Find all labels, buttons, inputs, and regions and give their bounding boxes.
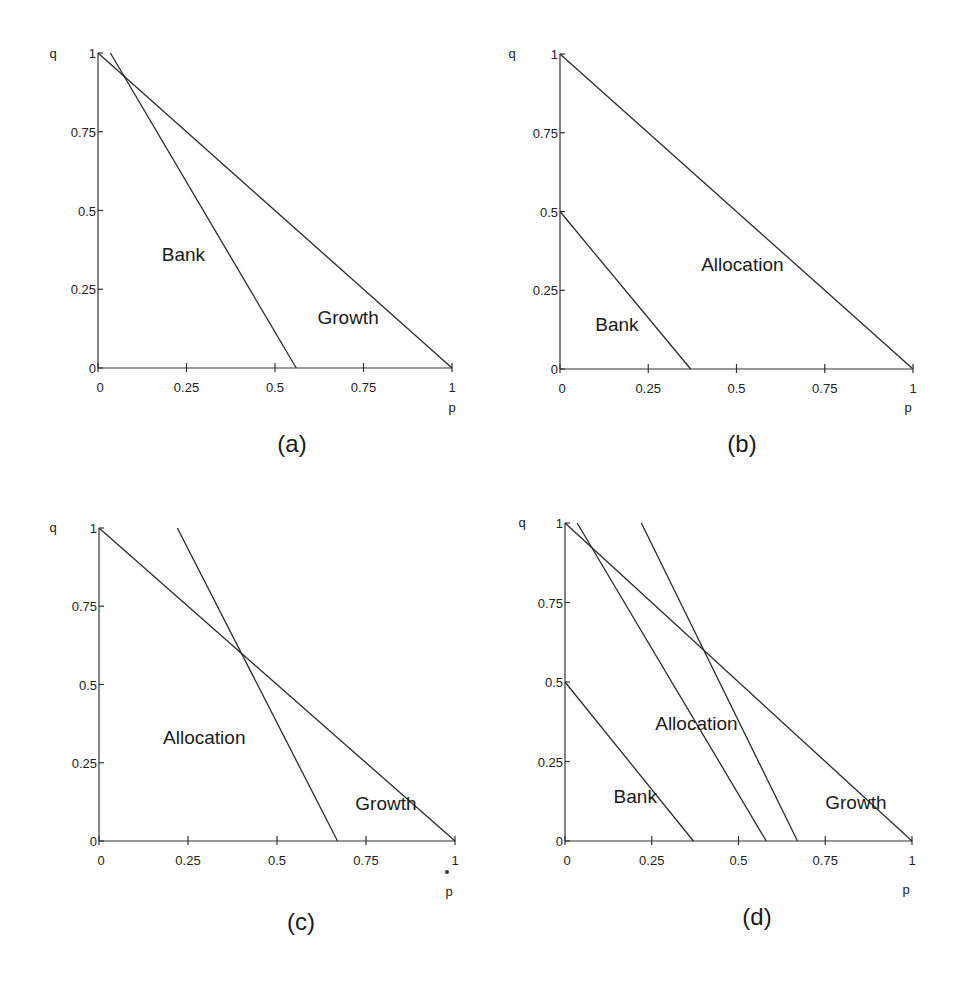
region-label-bank: Bank (595, 314, 639, 335)
boundary-line (565, 682, 693, 841)
y-tick-label: 1 (556, 516, 563, 531)
region-label-growth: Growth (355, 793, 416, 814)
panel-caption: (c) (287, 908, 315, 935)
y-tick-label: 0.5 (540, 205, 558, 220)
y-axis-title: q (518, 515, 525, 530)
boundary-line (177, 528, 337, 841)
x-tick-label: 0.25 (174, 380, 199, 395)
x-tick-label: 0.25 (636, 381, 661, 396)
x-tick-label: 0 (558, 381, 565, 396)
x-tick-label: 0.75 (812, 381, 837, 396)
y-tick-label: 1 (89, 46, 96, 61)
panel-caption: (a) (277, 430, 306, 457)
region-label-allocation: Allocation (701, 254, 783, 275)
boundary-line (560, 212, 691, 370)
y-tick-label: 0.75 (538, 596, 563, 611)
y-tick-label: 0 (551, 362, 558, 377)
x-tick-label: 0 (563, 853, 570, 868)
y-axis-title: q (508, 46, 515, 61)
region-label-allocation: Allocation (655, 713, 737, 734)
y-tick-label: 0.25 (71, 282, 96, 297)
y-tick-label: 0 (89, 361, 96, 376)
panel-caption: (b) (727, 430, 756, 457)
x-tick-label: 0.5 (727, 381, 745, 396)
x-axis-title: p (902, 882, 909, 897)
region-label-allocation: Allocation (163, 727, 245, 748)
x-tick-label: 1 (908, 853, 915, 868)
boundary-line (641, 523, 797, 841)
x-tick-label: 1 (448, 380, 455, 395)
y-tick-label: 0.75 (72, 599, 97, 614)
x-tick-label: 0.5 (268, 853, 286, 868)
x-tick-label: 0 (97, 853, 104, 868)
region-label-bank: Bank (162, 244, 206, 265)
panel-d: 000.250.250.50.50.750.7511qpAllocationBa… (518, 515, 915, 930)
panel-b: 000.250.250.50.50.750.7511qpAllocationBa… (508, 46, 916, 457)
boundary-line (110, 53, 296, 368)
y-tick-label: 0.75 (71, 125, 96, 140)
x-axis-title: p (445, 884, 452, 899)
scan-dot-mark (445, 870, 449, 874)
y-tick-label: 1 (551, 47, 558, 62)
x-tick-label: 0.75 (813, 853, 838, 868)
y-axis-title: q (49, 46, 56, 61)
y-tick-label: 0.5 (545, 675, 563, 690)
x-axis-title: p (904, 400, 911, 415)
panel-a: 000.250.250.50.50.750.7511qpBankGrowth(a… (49, 46, 455, 457)
y-tick-label: 0.25 (533, 283, 558, 298)
y-tick-label: 1 (90, 521, 97, 536)
y-tick-label: 0.25 (72, 756, 97, 771)
x-axis-title: p (448, 400, 455, 415)
y-tick-label: 0.5 (79, 678, 97, 693)
y-axis-title: q (49, 520, 56, 535)
region-label-bank: Bank (614, 786, 658, 807)
x-tick-label: 0.75 (353, 853, 378, 868)
y-tick-label: 0 (556, 834, 563, 849)
panel-caption: (d) (742, 903, 771, 930)
y-tick-label: 0 (90, 834, 97, 849)
y-tick-label: 0.75 (533, 126, 558, 141)
y-tick-label: 0.5 (78, 204, 96, 219)
region-label-growth: Growth (317, 307, 378, 328)
y-tick-label: 0.25 (538, 755, 563, 770)
x-tick-label: 1 (451, 853, 458, 868)
x-tick-label: 1 (909, 381, 916, 396)
x-tick-label: 0.5 (266, 380, 284, 395)
figure-canvas: 000.250.250.50.50.750.7511qpBankGrowth(a… (0, 0, 965, 987)
x-tick-label: 0.25 (175, 853, 200, 868)
x-tick-label: 0 (96, 380, 103, 395)
panel-c: 000.250.250.50.50.750.7511qpAllocationGr… (49, 520, 458, 935)
region-label-growth: Growth (825, 792, 886, 813)
boundary-line (98, 53, 452, 368)
x-tick-label: 0.5 (729, 853, 747, 868)
x-tick-label: 0.25 (639, 853, 664, 868)
x-tick-label: 0.75 (351, 380, 376, 395)
